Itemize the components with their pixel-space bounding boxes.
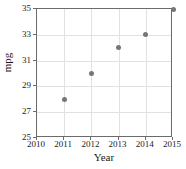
y-axis-tick-label: 31 bbox=[11, 56, 31, 65]
y-axis-tick-label: 33 bbox=[11, 30, 31, 39]
scatter-chart-figure: mpg Year 2527293133352010201120122013201… bbox=[0, 0, 186, 169]
data-point bbox=[143, 32, 148, 37]
x-axis-tick-label: 2011 bbox=[48, 140, 78, 149]
x-axis-tick-label: 2014 bbox=[130, 140, 160, 149]
data-point bbox=[171, 7, 176, 12]
gridline-vertical bbox=[146, 9, 147, 136]
x-axis-tick-label: 2010 bbox=[21, 140, 51, 149]
gridline-horizontal bbox=[37, 112, 171, 113]
y-axis-tick bbox=[33, 8, 36, 9]
gridline-horizontal bbox=[37, 61, 171, 62]
gridline-vertical bbox=[64, 9, 65, 136]
y-axis-tick-label: 29 bbox=[11, 81, 31, 90]
x-axis-tick-label: 2015 bbox=[157, 140, 186, 149]
y-axis-tick bbox=[33, 111, 36, 112]
x-axis-tick-label: 2013 bbox=[103, 140, 133, 149]
y-axis-tick-label: 35 bbox=[11, 4, 31, 13]
data-point bbox=[89, 71, 94, 76]
y-axis-tick bbox=[33, 34, 36, 35]
x-axis-tick-label: 2012 bbox=[75, 140, 105, 149]
x-axis-title: Year bbox=[36, 152, 172, 163]
data-point bbox=[62, 97, 67, 102]
y-axis-tick-label: 27 bbox=[11, 107, 31, 116]
plot-area bbox=[36, 8, 172, 137]
y-axis-tick bbox=[33, 85, 36, 86]
gridline-horizontal bbox=[37, 86, 171, 87]
gridline-vertical bbox=[119, 9, 120, 136]
data-point bbox=[116, 45, 121, 50]
gridline-horizontal bbox=[37, 35, 171, 36]
y-axis-tick bbox=[33, 60, 36, 61]
